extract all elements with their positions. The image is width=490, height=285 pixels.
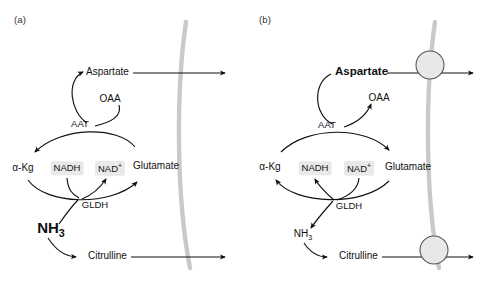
panel-label-b: (b)	[259, 14, 271, 25]
akg-to-glutamate-arc-a	[28, 180, 137, 200]
transporter-upper-b	[416, 51, 444, 79]
enzyme-gldh-a: GLDH	[82, 200, 108, 210]
node-aspartate-b: Aspartate	[335, 66, 388, 78]
nadh-produced-arrow-b	[315, 179, 334, 200]
gldh-to-nh3-arrow-b	[311, 201, 333, 228]
cofactor-nad-label-b: NAD	[347, 163, 367, 174]
akg-to-glutamate-arc-b	[281, 132, 389, 152]
node-nh3-sub-a: 3	[59, 227, 65, 239]
cofactor-nad-charge-a: +	[118, 162, 122, 169]
node-citrulline-a: Citrulline	[88, 251, 127, 261]
cofactor-nadh-b: NADH	[299, 161, 332, 175]
transporter-lower-b	[420, 236, 448, 264]
nh3-to-citrulline-arrow-b	[304, 243, 327, 257]
cofactor-nad-charge-b: +	[367, 162, 371, 169]
enzyme-aat-b: AAT	[318, 120, 336, 130]
glutamate-to-akg-arc-a	[35, 132, 135, 152]
panel-a: (a) Aspartate OAA AAT α-Kg NADH NAD+ Glu…	[0, 0, 245, 285]
oaa-into-aat-a	[95, 105, 120, 126]
panel-label-a: (a)	[14, 14, 26, 25]
cofactor-nad-b: NAD+	[344, 161, 374, 176]
panel-b-graphics	[245, 0, 490, 285]
nh3-to-citrulline-arrow-a	[48, 238, 76, 257]
cofactor-nadh-a: NADH	[51, 161, 84, 175]
node-nh3-sub-b: 3	[308, 233, 312, 242]
node-oaa-a: OAA	[99, 94, 120, 104]
node-nh3-a: NH3	[37, 220, 65, 239]
node-nh3-label-a: NH	[37, 219, 59, 236]
node-glutamate-a: Glutamate	[133, 161, 179, 171]
node-nh3-b: NH3	[294, 229, 312, 241]
panel-a-graphics	[0, 0, 245, 285]
aspartate-into-aat-b	[318, 74, 332, 124]
node-glutamate-b: Glutamate	[385, 162, 431, 172]
cofactor-nad-a: NAD+	[95, 161, 125, 176]
nad-produced-arrow-a	[82, 179, 106, 199]
aat-to-aspartate-arrow-a	[72, 72, 87, 123]
figure-canvas: (a) Aspartate OAA AAT α-Kg NADH NAD+ Glu…	[0, 0, 490, 285]
node-aspartate-a: Aspartate	[86, 67, 129, 77]
panel-b: (b) Aspartate OAA AAT α-Kg NADH NAD+ Glu…	[245, 0, 490, 285]
enzyme-aat-a: AAT	[71, 119, 89, 129]
node-oaa-b: OAA	[368, 93, 389, 103]
node-citrulline-b: Citrulline	[339, 251, 378, 261]
membrane-a	[179, 22, 190, 268]
node-akg-a: α-Kg	[12, 163, 33, 173]
cofactor-nad-label-a: NAD	[98, 163, 118, 174]
glutamate-to-akg-arc-b	[276, 180, 389, 200]
aat-to-oaa-arrow-b	[344, 104, 371, 127]
node-nh3-label-b: NH	[294, 228, 308, 239]
enzyme-gldh-b: GLDH	[336, 201, 362, 211]
node-akg-b: α-Kg	[259, 162, 280, 172]
nadh-consumed-line-a	[67, 178, 79, 198]
